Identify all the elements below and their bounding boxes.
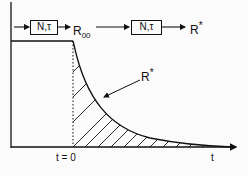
r-star-curve-sup: * <box>150 67 154 78</box>
block2-label: N,τ <box>140 21 154 32</box>
r-star-top-sup: * <box>199 20 203 31</box>
r-star-top-main: R <box>190 23 199 37</box>
t-axis-label: t <box>211 153 214 163</box>
r-infinity-label: R00 <box>73 25 91 40</box>
r-star-curve-main: R <box>141 70 150 84</box>
r-star-top-label: R* <box>190 21 203 36</box>
t0-label: t = 0 <box>56 153 76 163</box>
block1-label: N,τ <box>37 21 51 32</box>
r-infinity-sub: 00 <box>82 31 91 40</box>
diagram-canvas: N,τ N,τ R00 R* R* t = 0 t <box>0 0 248 176</box>
r-star-curve-label: R* <box>141 68 154 83</box>
r-infinity-main: R <box>73 24 82 38</box>
decay-curve <box>73 41 232 147</box>
r-star-pointer <box>104 80 140 97</box>
block2-n-tau: N,τ <box>131 20 162 35</box>
block1-n-tau: N,τ <box>30 20 58 35</box>
